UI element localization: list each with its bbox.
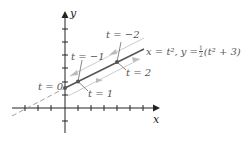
arrow-left-icon (109, 49, 117, 55)
dashed-line-extension (12, 88, 65, 116)
leader-lines (78, 42, 126, 91)
equation-fraction: 1 2 (199, 45, 203, 58)
point-t0 (63, 86, 67, 90)
x-axis-label: x (153, 114, 159, 125)
x-axis-arrow-icon (153, 105, 160, 112)
curve-equation-label: x = t², y = 1 2 (t² + 3) (146, 45, 241, 58)
equation-lhs: x = t², y = (146, 47, 198, 57)
y-axis-arrow-icon (62, 11, 69, 18)
label-t1: t = 1 (88, 89, 113, 99)
label-t0: t = 0 (38, 82, 63, 92)
arrow-left-icon (70, 70, 78, 76)
equation-rhs: (t² + 3) (204, 47, 241, 57)
y-axis-label: y (70, 8, 76, 19)
label-t2: t = 2 (126, 68, 151, 78)
diagram-canvas (0, 0, 249, 141)
fraction-denominator: 2 (199, 52, 203, 58)
label-t-minus-1: t = −1 (71, 52, 105, 62)
label-t-minus-2: t = −2 (106, 30, 140, 40)
